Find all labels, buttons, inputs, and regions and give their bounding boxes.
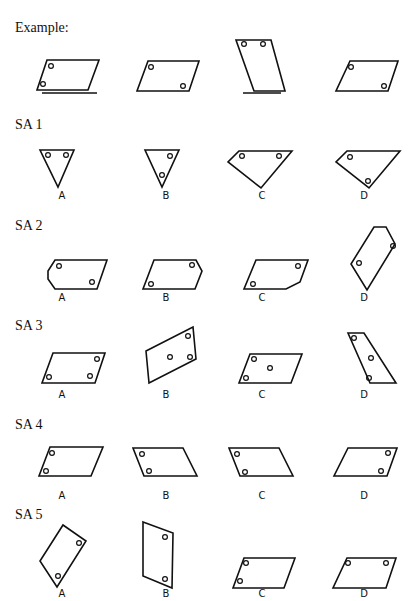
- hole-dot: [382, 84, 387, 89]
- option-letter: B: [163, 490, 170, 501]
- option-letter: D: [360, 588, 368, 599]
- hole-dot: [242, 42, 247, 47]
- hole-dot: [384, 561, 389, 566]
- sa4-option-c[interactable]: C: [229, 448, 293, 501]
- hole-dot: [47, 375, 52, 380]
- shape-outline: [244, 260, 308, 289]
- hole-dot: [357, 261, 362, 266]
- hole-dot: [244, 376, 249, 381]
- hole-dot: [296, 264, 301, 269]
- hole-dot: [348, 155, 353, 160]
- hole-dot: [369, 356, 374, 361]
- hole-dot: [50, 451, 55, 456]
- sa3-option-a[interactable]: A: [42, 353, 105, 400]
- hole-dot: [95, 357, 100, 362]
- sa3-option-b[interactable]: B: [146, 327, 196, 400]
- hole-dot: [88, 374, 93, 379]
- shape-outline: [233, 558, 295, 588]
- shape-outline: [336, 151, 400, 188]
- option-letter: B: [163, 389, 170, 400]
- option-letter: B: [163, 190, 170, 201]
- option-letter: D: [360, 190, 368, 201]
- hole-dot: [366, 179, 371, 184]
- hole-dot: [163, 535, 168, 540]
- hole-dot: [386, 451, 391, 456]
- sa3-option-d[interactable]: D: [348, 333, 396, 400]
- shape-outline: [145, 150, 179, 187]
- hole-dot: [149, 282, 154, 287]
- example-shape-3: [236, 40, 285, 93]
- hole-dot: [149, 65, 154, 70]
- option-letter: C: [259, 292, 266, 303]
- option-letter: A: [59, 588, 66, 599]
- hole-dot: [349, 65, 354, 70]
- sa1-option-b[interactable]: B: [145, 150, 179, 201]
- sa2-option-c[interactable]: C: [244, 260, 308, 303]
- option-letter: B: [163, 588, 170, 599]
- hole-dot: [140, 452, 145, 457]
- shape-outline: [336, 61, 398, 91]
- option-letter: C: [259, 389, 266, 400]
- hole-dot: [277, 154, 282, 159]
- sa4-option-d[interactable]: D: [334, 448, 397, 501]
- sa1-option-a[interactable]: A: [40, 150, 74, 201]
- hole-dot: [235, 452, 240, 457]
- hole-dot: [186, 334, 191, 339]
- shape-outline: [40, 525, 86, 587]
- hole-dot: [90, 280, 95, 285]
- option-letter: A: [59, 490, 66, 501]
- sa1-option-c[interactable]: C: [228, 151, 292, 201]
- figure-canvas: ABCDABCDABCDABCDABCD: [0, 0, 412, 601]
- shape-outline: [351, 227, 395, 290]
- option-letter: A: [59, 389, 66, 400]
- sa5-option-d[interactable]: D: [333, 558, 396, 599]
- hole-dot: [163, 577, 168, 582]
- sa5-option-c[interactable]: C: [233, 558, 295, 599]
- sa5-option-b[interactable]: B: [143, 522, 173, 599]
- hole-dot: [261, 42, 266, 47]
- example-shape-1: [37, 60, 99, 93]
- shape-outline: [143, 522, 173, 588]
- shape-outline: [333, 558, 396, 588]
- hole-dot: [243, 470, 248, 475]
- option-letter: C: [259, 190, 266, 201]
- hole-dot: [240, 154, 245, 159]
- shape-outline: [137, 61, 199, 91]
- sa4-option-b[interactable]: B: [133, 448, 197, 501]
- option-letter: D: [360, 292, 368, 303]
- hole-dot: [238, 579, 243, 584]
- hole-dot: [181, 84, 186, 89]
- hole-dot: [160, 173, 165, 178]
- sa4-option-a[interactable]: A: [39, 447, 103, 501]
- option-letter: B: [163, 292, 170, 303]
- shape-outline: [37, 60, 99, 90]
- shape-outline: [236, 40, 285, 91]
- option-letter: D: [360, 490, 368, 501]
- sa1-option-d[interactable]: D: [336, 151, 400, 201]
- shape-outline: [334, 448, 397, 476]
- hole-dot: [147, 469, 152, 474]
- hole-dot: [41, 82, 46, 87]
- option-letter: C: [259, 588, 266, 599]
- hole-dot: [44, 469, 49, 474]
- hole-dot: [346, 561, 351, 566]
- shape-outline: [143, 260, 202, 289]
- hole-dot: [77, 541, 82, 546]
- hole-dot: [168, 154, 173, 159]
- sa2-option-a[interactable]: A: [48, 260, 107, 303]
- hole-dot: [252, 357, 257, 362]
- hole-dot: [57, 264, 62, 269]
- hole-dot: [244, 561, 249, 566]
- sa5-option-a[interactable]: A: [40, 525, 86, 599]
- sa2-option-b[interactable]: B: [143, 260, 202, 303]
- option-letter: A: [59, 190, 66, 201]
- hole-dot: [168, 355, 173, 360]
- hole-dot: [46, 153, 51, 158]
- hole-dot: [56, 574, 61, 579]
- hole-dot: [251, 282, 256, 287]
- sa2-option-d[interactable]: D: [351, 227, 395, 303]
- option-letter: D: [360, 389, 368, 400]
- sa3-option-c[interactable]: C: [239, 354, 302, 400]
- option-letter: C: [259, 490, 266, 501]
- hole-dot: [352, 336, 357, 341]
